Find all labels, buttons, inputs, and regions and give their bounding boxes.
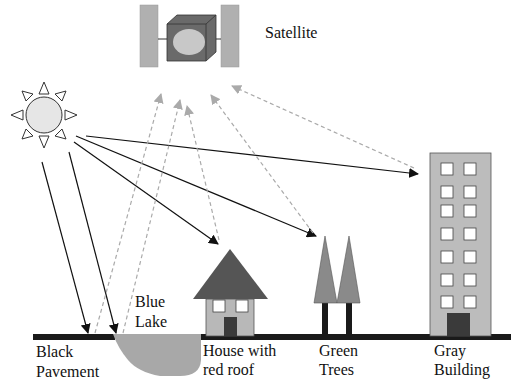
- house-window-left: [213, 300, 225, 312]
- house-roof: [193, 249, 268, 299]
- building-window: [441, 274, 453, 286]
- solar-panel-right: [221, 5, 239, 67]
- building-icon: [430, 153, 491, 336]
- ray-to-pavement: [42, 162, 88, 333]
- house-label-line2: red roof: [203, 361, 255, 378]
- building-window: [464, 296, 476, 308]
- house-label-line1: House with: [203, 342, 276, 359]
- blue-lake: [113, 334, 201, 376]
- building-window: [441, 228, 453, 240]
- house-icon: [193, 249, 268, 336]
- ray-to-building: [86, 136, 418, 174]
- building-window: [441, 163, 453, 175]
- satellite-dish: [173, 29, 205, 55]
- lake-label-line2: Lake: [135, 313, 167, 330]
- lake-label-line1: Blue: [135, 293, 165, 310]
- building-window: [464, 163, 476, 175]
- ray-to-trees: [76, 136, 316, 236]
- building-window: [441, 205, 453, 217]
- building-window: [441, 296, 453, 308]
- building-window: [464, 251, 476, 263]
- building-body: [430, 153, 491, 336]
- solar-panel-left: [140, 5, 158, 67]
- building-door: [447, 313, 470, 336]
- pavement-label-line1: Black: [36, 343, 73, 360]
- trees-label-line2: Trees: [319, 361, 354, 378]
- building-window: [441, 251, 453, 263]
- building-window: [464, 228, 476, 240]
- satellite-label: Satellite: [265, 24, 317, 41]
- sun-icon: [11, 82, 77, 148]
- house-window-right: [236, 300, 248, 312]
- tree-trunk-left: [322, 303, 328, 336]
- building-label-line1: Gray: [434, 342, 466, 360]
- building-window: [464, 186, 476, 198]
- trees-label-line1: Green: [319, 342, 358, 359]
- house-door: [224, 317, 237, 336]
- ray-to-lake: [69, 152, 116, 333]
- satellite-icon: [140, 5, 239, 67]
- ray-to-house: [74, 142, 218, 244]
- pavement-label-line2: Pavement: [36, 363, 100, 380]
- remote-sensing-diagram: Satellite: [0, 0, 524, 386]
- building-window: [464, 205, 476, 217]
- reflection-from-house: [187, 106, 219, 240]
- tree-crown-right: [337, 236, 360, 303]
- tree-trunk-right: [346, 303, 352, 336]
- building-window: [441, 186, 453, 198]
- tree-crown-left: [314, 236, 337, 303]
- building-label-line2: Building: [434, 361, 490, 379]
- black-pavement: [33, 334, 115, 340]
- building-window: [464, 274, 476, 286]
- trees-icon: [314, 236, 360, 336]
